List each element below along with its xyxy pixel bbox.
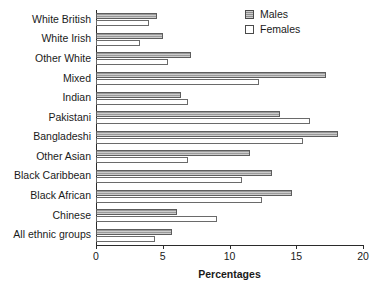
bar-group — [96, 225, 363, 245]
bar-males — [96, 13, 157, 19]
bar-males — [96, 131, 338, 137]
bar-group — [96, 30, 363, 50]
category-label: Other Asian — [36, 150, 91, 162]
x-tick-label: 20 — [357, 250, 369, 262]
bar-females — [96, 157, 188, 163]
bar-females — [96, 138, 303, 144]
bar-group — [96, 69, 363, 89]
bar-group — [96, 128, 363, 148]
bar-males — [96, 52, 191, 58]
bar-group — [96, 186, 363, 206]
category-label: All ethnic groups — [13, 228, 91, 240]
x-tick-label: 10 — [224, 250, 236, 262]
bar-females — [96, 236, 155, 242]
category-label: White Irish — [41, 32, 91, 44]
bar-males — [96, 72, 326, 78]
x-tick — [296, 245, 297, 249]
plot-area — [96, 10, 363, 245]
bar-females — [96, 177, 242, 183]
x-tick-label: 0 — [93, 250, 99, 262]
bar-males — [96, 229, 172, 235]
bar-males — [96, 111, 280, 117]
bar-group — [96, 108, 363, 128]
category-label: Mixed — [63, 72, 91, 84]
bar-group — [96, 49, 363, 69]
bar-females — [96, 216, 217, 222]
bar-females — [96, 59, 168, 65]
category-axis-labels: White BritishWhite IrishOther WhiteMixed… — [0, 10, 91, 245]
bar-group — [96, 206, 363, 226]
bar-males — [96, 92, 181, 98]
bar-males — [96, 209, 177, 215]
bar-females — [96, 197, 262, 203]
category-label: White British — [32, 13, 91, 25]
bar-females — [96, 40, 140, 46]
x-tick — [230, 245, 231, 249]
bar-group — [96, 147, 363, 167]
category-label: Pakistani — [48, 111, 91, 123]
bar-females — [96, 99, 188, 105]
category-label: Indian — [62, 91, 91, 103]
bar-group — [96, 88, 363, 108]
x-tick — [96, 245, 97, 249]
x-axis-title: Percentages — [96, 268, 363, 280]
category-label: Bangladeshi — [33, 130, 91, 142]
bar-group — [96, 10, 363, 30]
x-tick-label: 15 — [290, 250, 302, 262]
category-label: Chinese — [52, 209, 91, 221]
bar-males — [96, 170, 272, 176]
bar-group — [96, 167, 363, 187]
bar-females — [96, 79, 259, 85]
category-label: Black Caribbean — [14, 169, 91, 181]
category-label: Black African — [30, 189, 91, 201]
x-tick-label: 5 — [160, 250, 166, 262]
x-tick — [363, 245, 364, 249]
bar-males — [96, 150, 250, 156]
bar-males — [96, 33, 163, 39]
category-label: Other White — [35, 52, 91, 64]
bar-chart: Males Females White BritishWhite IrishOt… — [0, 0, 385, 293]
bar-females — [96, 118, 310, 124]
bar-females — [96, 20, 149, 26]
x-tick — [163, 245, 164, 249]
bar-males — [96, 190, 292, 196]
